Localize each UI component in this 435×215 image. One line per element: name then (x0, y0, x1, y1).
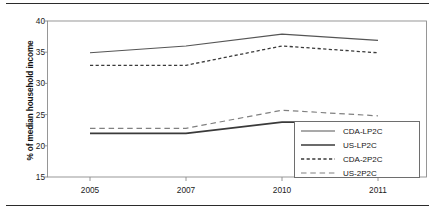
legend-label: US-2P2C (343, 169, 377, 178)
series-line-cda-2p2c (90, 46, 378, 65)
legend-swatch-us-2p2c (300, 167, 336, 179)
legend: CDA-LP2C US-LP2C CDA-2P2C US-2P2C (294, 121, 420, 178)
legend-swatch-cda-lp2c (300, 125, 336, 137)
legend-item-us-lp2c[interactable]: US-LP2C (295, 138, 421, 152)
chart-figure: % of median household income 15 20 25 30… (0, 0, 435, 215)
y-tick-marks (44, 21, 48, 177)
legend-swatch-us-lp2c (300, 139, 336, 151)
legend-item-us-2p2c[interactable]: US-2P2C (295, 166, 421, 180)
data-series-group (90, 34, 378, 133)
plot-area (0, 0, 435, 215)
legend-item-cda-lp2c[interactable]: CDA-LP2C (295, 124, 421, 138)
legend-label: US-LP2C (343, 141, 377, 150)
legend-item-cda-2p2c[interactable]: CDA-2P2C (295, 152, 421, 166)
legend-label: CDA-2P2C (343, 155, 383, 164)
legend-label: CDA-LP2C (343, 127, 383, 136)
legend-swatch-cda-2p2c (300, 153, 336, 165)
